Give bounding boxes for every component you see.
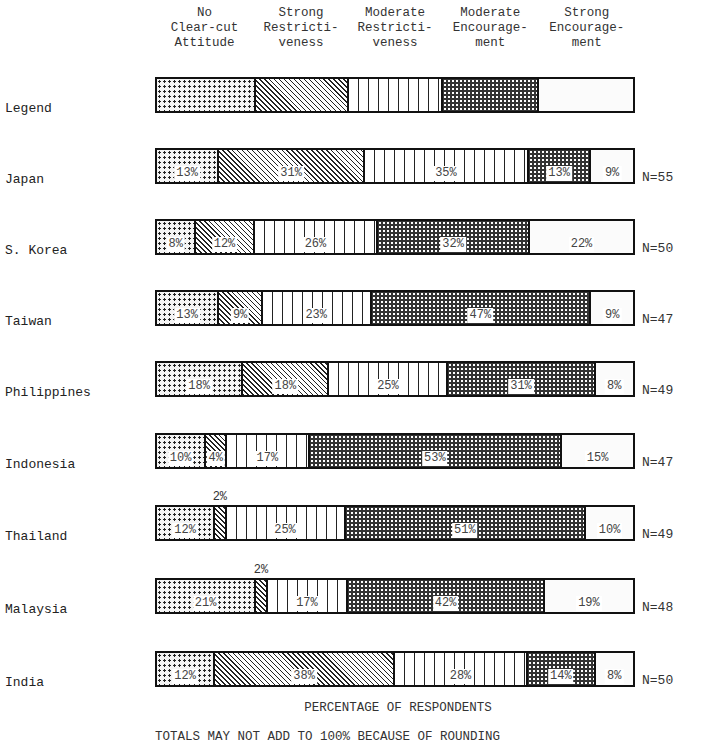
bar-segment-mod_enc: 47%: [372, 292, 592, 324]
bar-segment-strong_restr: 4%: [206, 435, 227, 467]
segment-value-label: 12%: [212, 237, 238, 252]
sample-size-label: N=48: [642, 600, 673, 615]
segment-value-label: 35%: [433, 166, 459, 181]
bar-segment-mod_restr: 26%: [255, 221, 379, 253]
bar-segment-mod_enc: 42%: [348, 580, 545, 612]
bar-segment-strong_enc: 22%: [530, 221, 633, 253]
segment-value-label: 15%: [585, 451, 611, 466]
bar-segment-no_clear: 13%: [157, 150, 219, 182]
bar-segment-mod_enc: 13%: [529, 150, 591, 182]
bar-segment-strong_enc: 19%: [545, 580, 633, 612]
legend-bar: [155, 77, 635, 113]
segment-value-label: 9%: [603, 308, 621, 323]
bar-segment-mod_enc: 31%: [448, 363, 595, 395]
legend-header-no_clear: NoClear-cutAttitude: [147, 6, 262, 51]
bar-segment-strong_enc: 9%: [591, 150, 633, 182]
legend-header-line: No: [147, 6, 262, 21]
legend-header-line: Clear-cut: [147, 21, 262, 36]
bar-segment-mod_restr: 35%: [365, 150, 529, 182]
segment-value-label: 18%: [273, 379, 299, 394]
stacked-bar: 13%9%23%47%9%: [155, 290, 635, 326]
stacked-bar: 10%4%17%53%15%: [155, 433, 635, 469]
segment-value-label: 51%: [452, 523, 478, 538]
bar-segment-strong_enc: 8%: [596, 363, 633, 395]
bar-segment-no_clear: [157, 79, 256, 111]
bar-segment-mod_enc: 14%: [528, 653, 596, 685]
sample-size-label: N=49: [642, 383, 673, 398]
segment-value-label: 13%: [174, 308, 200, 323]
segment-value-label: 26%: [303, 237, 329, 252]
bar-segment-mod_enc: 32%: [378, 221, 530, 253]
bar-segment-mod_enc: 51%: [346, 507, 587, 539]
segment-value-label: 10%: [597, 523, 623, 538]
stacked-bar: 21%2%17%42%19%: [155, 578, 635, 614]
segment-value-label: 21%: [193, 596, 219, 611]
segment-value-label: 8%: [167, 237, 185, 252]
segment-value-label: 19%: [576, 596, 602, 611]
bar-segment-strong_restr: 18%: [243, 363, 329, 395]
bar-segment-mod_restr: [349, 79, 443, 111]
segment-value-label: 9%: [603, 166, 621, 181]
stacked-bar: 8%12%26%32%22%: [155, 219, 635, 255]
legend-header-line: ment: [530, 36, 643, 51]
sample-size-label: N=47: [642, 312, 673, 327]
segment-value-label: 22%: [569, 237, 595, 252]
bar-segment-strong_enc: 10%: [586, 507, 633, 539]
stacked-bar: 12%38%28%14%8%: [155, 651, 635, 687]
bar-segment-no_clear: 12%: [157, 653, 215, 685]
segment-value-label: 47%: [468, 308, 494, 323]
row-label-country: Japan: [5, 172, 44, 187]
segment-value-label: 14%: [548, 669, 574, 684]
stacked-bar: 18%18%25%31%8%: [155, 361, 635, 397]
segment-value-label: 12%: [172, 669, 198, 684]
bar-segment-no_clear: 12%: [157, 507, 215, 539]
segment-value-label: 31%: [508, 379, 534, 394]
segment-value-label: 42%: [433, 596, 459, 611]
bar-segment-strong_restr: 9%: [219, 292, 263, 324]
bar-segment-strong_restr: [256, 79, 350, 111]
bar-segment-strong_restr: 31%: [219, 150, 365, 182]
legend-header-line: Encourage-: [530, 21, 643, 36]
bar-segment-strong_restr: 2%: [215, 507, 226, 539]
stacked-bar: 13%31%35%13%9%: [155, 148, 635, 184]
segment-value-label: 23%: [303, 308, 329, 323]
segment-value-label: 18%: [186, 379, 212, 394]
row-label-country: Indonesia: [5, 457, 75, 472]
row-label-country: India: [5, 675, 44, 690]
row-label-country: Philippines: [5, 385, 91, 400]
segment-value-label: 28%: [448, 669, 474, 684]
bar-segment-mod_enc: 53%: [310, 435, 563, 467]
segment-value-label: 32%: [440, 237, 466, 252]
x-axis-title: PERCENTAGE OF RESPONDENTS: [0, 701, 706, 715]
segment-value-label: 25%: [375, 379, 401, 394]
bar-segment-strong_restr: 2%: [256, 580, 267, 612]
bar-segment-no_clear: 21%: [157, 580, 256, 612]
sample-size-label: N=49: [642, 527, 673, 542]
footnote: TOTALS MAY NOT ADD TO 100% BECAUSE OF RO…: [155, 730, 500, 744]
segment-value-label: 12%: [172, 523, 198, 538]
sample-size-label: N=50: [642, 673, 673, 688]
segment-value-label: 25%: [272, 523, 298, 538]
bar-segment-strong_enc: 9%: [591, 292, 633, 324]
bar-segment-mod_restr: 28%: [395, 653, 528, 685]
bar-segment-no_clear: 8%: [157, 221, 196, 253]
bar-segment-strong_restr: 38%: [215, 653, 395, 685]
segment-value-label: 17%: [294, 596, 320, 611]
segment-value-label: 9%: [231, 308, 249, 323]
segment-value-label: 13%: [546, 166, 572, 181]
bar-segment-no_clear: 18%: [157, 363, 243, 395]
row-label-country: Taiwan: [5, 314, 52, 329]
bar-segment-mod_enc: [443, 79, 539, 111]
row-label-country: S. Korea: [5, 243, 67, 258]
bar-segment-mod_restr: 25%: [329, 363, 448, 395]
segment-value-label: 53%: [422, 451, 448, 466]
bar-segment-strong_enc: [539, 79, 633, 111]
row-label-legend: Legend: [5, 101, 52, 116]
legend-header-line: Attitude: [147, 36, 262, 51]
bar-segment-strong_enc: 8%: [596, 653, 633, 685]
bar-segment-no_clear: 10%: [157, 435, 206, 467]
row-label-country: Malaysia: [5, 602, 67, 617]
segment-value-label: 38%: [291, 669, 317, 684]
sample-size-label: N=47: [642, 455, 673, 470]
segment-value-label: 17%: [255, 451, 281, 466]
